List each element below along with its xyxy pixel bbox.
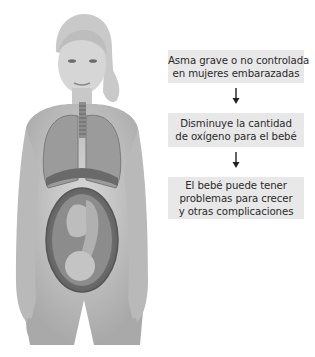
flow-step-text: y otras complicaciones (168, 205, 304, 218)
pregnant-woman-anatomy-icon (0, 0, 170, 357)
pregnant-woman-illustration (0, 0, 170, 357)
flow-step-text: de oxígeno para el bebé (168, 130, 304, 143)
flow-step-text: El bebé puede tener (168, 179, 304, 192)
flow-step-complications: El bebé puede tener problemas para crece… (168, 177, 304, 219)
flow-step-text: problemas para crecer (168, 192, 304, 205)
arrow-down-icon (231, 88, 241, 104)
flow-step-oxygen: Disminuye la cantidad de oxígeno para el… (168, 113, 304, 147)
flow-step-asthma: Asma grave o no controlada en mujeres em… (168, 50, 304, 83)
flow-step-text: Disminuye la cantidad (168, 117, 304, 130)
arrow-down-icon (231, 152, 241, 168)
flow-step-text: en mujeres embarazadas (168, 67, 304, 80)
flow-step-text: Asma grave o no controlada (168, 54, 304, 67)
